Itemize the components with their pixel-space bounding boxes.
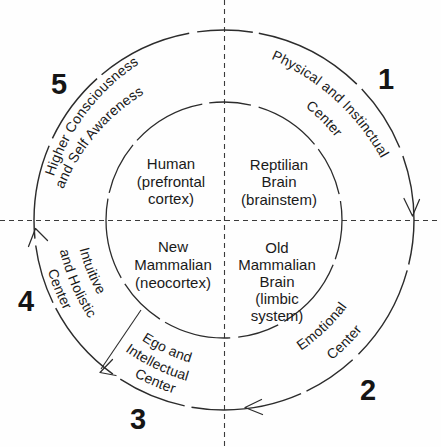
reptilian-line1: Reptilian [250, 156, 308, 173]
arrowhead-left-icon [29, 229, 48, 247]
old-mammalian-line2: Mammalian [238, 256, 316, 273]
arrowhead-right-icon [404, 199, 420, 217]
quadrant-label-reptilian: Reptilian Brain (brainstem) [241, 156, 317, 208]
new-mammalian-line2: Mammalian [134, 256, 212, 273]
quadrant-label-human: Human (prefrontal cortex) [137, 155, 205, 207]
diagram-canvas: Physical and Instinctual Center Emotiona… [0, 0, 441, 447]
human-line1: Human [147, 155, 195, 172]
section-number-2: 2 [360, 374, 376, 406]
reptilian-line2: Brain [261, 173, 296, 190]
quadrant-label-new-mammalian: New Mammalian (neocortex) [134, 238, 212, 291]
section-number-4: 4 [18, 285, 34, 317]
old-mammalian-line1: Old [265, 239, 288, 256]
new-mammalian-line3: (neocortex) [135, 274, 211, 291]
old-mammalian-line5: system) [251, 307, 304, 324]
section-number-1: 1 [378, 63, 394, 95]
human-line2: (prefrontal [137, 173, 205, 190]
old-mammalian-line4: (limbic [255, 290, 299, 307]
quadrant-label-old-mammalian: Old Mammalian Brain (limbic system) [238, 239, 316, 324]
section-number-3: 3 [130, 403, 146, 435]
human-line3: cortex) [148, 190, 194, 207]
old-mammalian-line3: Brain [259, 273, 294, 290]
section-number-5: 5 [51, 68, 67, 100]
reptilian-line3: (brainstem) [241, 191, 317, 208]
new-mammalian-line1: New [158, 238, 188, 255]
brain-centers-diagram: Physical and Instinctual Center Emotiona… [0, 0, 441, 447]
